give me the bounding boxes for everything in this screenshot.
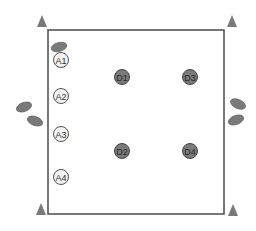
corner-marker-bottom-left-icon bbox=[36, 203, 46, 215]
node-label: D1 bbox=[116, 73, 128, 83]
left-oval-1-icon bbox=[15, 100, 33, 114]
seat-label: A2 bbox=[55, 92, 66, 102]
seat-label: A4 bbox=[55, 173, 66, 183]
corner-marker-bottom-right-icon bbox=[228, 204, 238, 216]
seat-label: A3 bbox=[55, 130, 66, 140]
corner-marker-top-right-icon bbox=[227, 15, 237, 27]
node-label: D3 bbox=[184, 73, 196, 83]
floor-diagram: A1 A2 A3 A4 D1 D3 D2 D4 bbox=[0, 0, 256, 231]
seat-label: A1 bbox=[55, 56, 66, 66]
seat-a4[interactable]: A4 bbox=[54, 170, 69, 185]
right-oval-1-icon bbox=[229, 97, 247, 112]
node-label: D2 bbox=[116, 147, 128, 157]
seat-a3[interactable]: A3 bbox=[54, 127, 69, 142]
node-d3[interactable]: D3 bbox=[183, 70, 198, 85]
corner-marker-top-left-icon bbox=[37, 15, 47, 27]
seat-a2[interactable]: A2 bbox=[54, 89, 69, 104]
seat-a1[interactable]: A1 bbox=[54, 53, 69, 68]
left-oval-2-icon bbox=[26, 114, 44, 128]
room-frame bbox=[48, 30, 224, 214]
node-label: D4 bbox=[184, 147, 196, 157]
top-left-oval-icon bbox=[50, 41, 68, 54]
right-oval-2-icon bbox=[227, 113, 245, 127]
node-d1[interactable]: D1 bbox=[115, 70, 130, 85]
node-d4[interactable]: D4 bbox=[183, 144, 198, 159]
node-d2[interactable]: D2 bbox=[115, 144, 130, 159]
